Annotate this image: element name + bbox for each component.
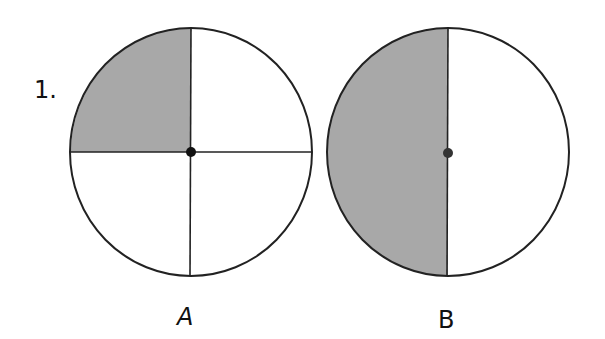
circle-b-shaded-half xyxy=(327,28,448,276)
problem-number: 1. xyxy=(34,78,57,102)
fraction-circles-diagram xyxy=(0,0,605,339)
circle-b xyxy=(327,28,569,276)
circle-a xyxy=(70,28,312,276)
circle-a-shaded-quarter xyxy=(71,28,191,152)
figure-label-b: B xyxy=(438,308,454,332)
circle-b-center-dot xyxy=(443,148,453,158)
figure-label-a: A xyxy=(177,305,193,329)
circle-a-center-dot xyxy=(186,147,196,157)
